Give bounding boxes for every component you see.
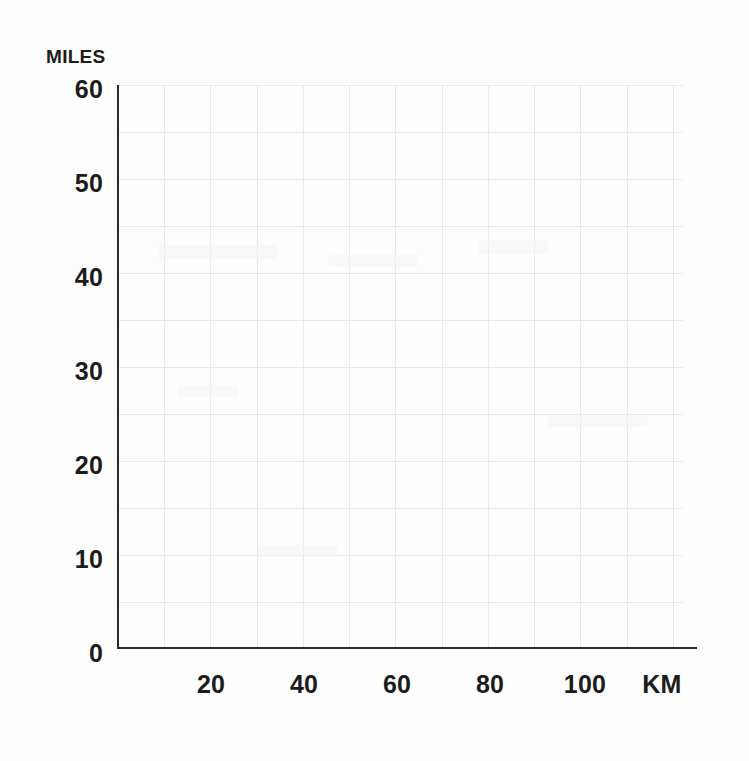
scan-artifact (178, 385, 238, 397)
scan-artifact (328, 255, 418, 267)
gridline-horizontal (118, 555, 683, 556)
y-axis-line (117, 85, 119, 649)
y-axis-ticks: 60 50 40 30 20 10 0 (0, 0, 103, 761)
x-tick-label: 60 (383, 672, 411, 697)
gridline-horizontal (118, 273, 683, 274)
gridline-horizontal (118, 320, 683, 321)
x-axis-line (118, 647, 697, 649)
x-tick-label: 20 (197, 672, 225, 697)
scan-artifact (158, 245, 278, 259)
scan-artifact (478, 240, 548, 254)
y-tick-label: 0 (89, 641, 103, 666)
gridline-horizontal (118, 226, 683, 227)
y-tick-label: 10 (75, 547, 103, 572)
scan-artifact (548, 415, 648, 427)
chart-figure: MILES (0, 0, 749, 761)
plot-area (118, 85, 683, 648)
gridline-horizontal (118, 179, 683, 180)
y-tick-label: 60 (75, 77, 103, 102)
gridline-horizontal (118, 602, 683, 603)
x-tick-label: 80 (476, 672, 504, 697)
gridline-horizontal (118, 132, 683, 133)
gridline-horizontal (118, 461, 683, 462)
x-tick-label: 40 (290, 672, 318, 697)
x-tick-label: 100 (564, 672, 606, 697)
gridline-horizontal (118, 85, 683, 86)
x-axis-title: KM (642, 672, 681, 697)
y-tick-label: 30 (75, 359, 103, 384)
gridline-horizontal (118, 508, 683, 509)
y-tick-label: 50 (75, 171, 103, 196)
y-tick-label: 40 (75, 265, 103, 290)
scan-artifact (258, 545, 338, 557)
y-tick-label: 20 (75, 453, 103, 478)
gridline-horizontal (118, 367, 683, 368)
